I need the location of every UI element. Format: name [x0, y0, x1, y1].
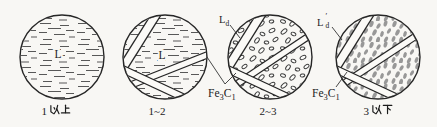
microstructure-diagram: L 1: [0, 0, 437, 127]
phase-label-liquid-1: L: [54, 48, 61, 60]
panel-transformed-ledeburite: 3: [333, 10, 422, 117]
ld-label: Ld: [219, 14, 229, 28]
ld-prime-mark: ′: [326, 12, 328, 21]
ld-prime-base: L: [317, 17, 323, 28]
caption-3: 2~3: [260, 105, 277, 117]
fe3c-right-label: Fe3C1: [312, 87, 340, 102]
caption-1-cjk-shang: [61, 105, 69, 113]
ld-prime-leader-line: [332, 27, 342, 40]
caption-4-cjk-xia: [383, 105, 391, 113]
panel-liquid: L 1: [20, 15, 104, 117]
ld-prime-sub: d: [326, 21, 330, 30]
annotation-ld: Ld: [219, 14, 240, 38]
caption-4: 3: [364, 105, 392, 117]
caption-4-cjk-yi: [373, 105, 381, 113]
annotation-ld-prime: L ′ d: [317, 12, 342, 40]
caption-1: 1: [42, 105, 70, 117]
caption-1-cjk-yi: [51, 105, 59, 113]
liquid-dash-pattern: [21, 16, 104, 99]
caption-4-number: 3: [364, 105, 370, 117]
panel-liquid-cementite: L 1~2: [120, 10, 212, 117]
fe3c-left-label: Fe3C1: [208, 87, 236, 102]
caption-2: 1~2: [149, 105, 166, 117]
caption-1-number: 1: [42, 105, 48, 117]
phase-label-liquid-2: L: [158, 49, 165, 61]
panel-ledeburite-cementite: 2~3: [225, 10, 318, 117]
